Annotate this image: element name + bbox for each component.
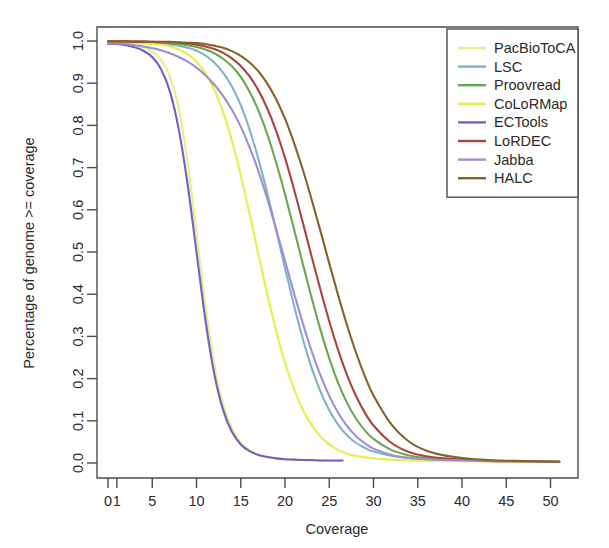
chart-legend: PacBioToCALSCProovreadCoLoRMapECToolsLoR… xyxy=(447,29,578,197)
x-tick-label: 20 xyxy=(277,493,293,509)
x-tick-label: 5 xyxy=(148,493,156,509)
legend-label-ectools: ECTools xyxy=(494,114,548,130)
legend-label-lordec: LoRDEC xyxy=(494,133,551,149)
y-axis-title: Percentage of genome >= coverage xyxy=(21,137,37,368)
x-tick-label: 10 xyxy=(188,493,204,509)
y-tick-label: 0.2 xyxy=(70,369,86,389)
x-tick-label: 25 xyxy=(321,493,337,509)
legend-label-jabba: Jabba xyxy=(494,152,534,168)
y-tick-label: 0.5 xyxy=(70,242,86,262)
x-tick-label: 15 xyxy=(233,493,249,509)
x-tick-label: 45 xyxy=(498,493,514,509)
x-axis-title: Coverage xyxy=(306,521,369,537)
y-tick-label: 0.8 xyxy=(70,115,86,135)
x-tick-label: 1 xyxy=(113,493,121,509)
y-tick-label: 0.6 xyxy=(70,200,86,220)
x-tick-label: 0 xyxy=(104,493,112,509)
chart-figure: 015101520253035404550 0.00.10.20.30.40.5… xyxy=(0,0,609,548)
legend-label-lsc: LSC xyxy=(494,59,522,75)
x-tick-label: 35 xyxy=(410,493,426,509)
x-tick-label: 30 xyxy=(365,493,381,509)
y-tick-label: 0.0 xyxy=(70,453,86,473)
x-tick-label: 40 xyxy=(454,493,470,509)
y-tick-label: 0.4 xyxy=(70,284,86,304)
legend-label-proovread: Proovread xyxy=(494,77,561,93)
legend-label-pacbiotoca: PacBioToCA xyxy=(494,40,576,56)
y-tick-label: 0.1 xyxy=(70,411,86,431)
y-tick-label: 1.0 xyxy=(70,31,86,51)
coverage-distribution-chart: 015101520253035404550 0.00.10.20.30.40.5… xyxy=(0,0,609,548)
legend-label-colormap: CoLoRMap xyxy=(494,96,567,112)
x-tick-label: 50 xyxy=(542,493,558,509)
y-tick-label: 0.3 xyxy=(70,326,86,346)
legend-label-halc: HALC xyxy=(494,170,533,186)
y-tick-label: 0.7 xyxy=(70,158,86,178)
y-tick-label: 0.9 xyxy=(70,73,86,93)
